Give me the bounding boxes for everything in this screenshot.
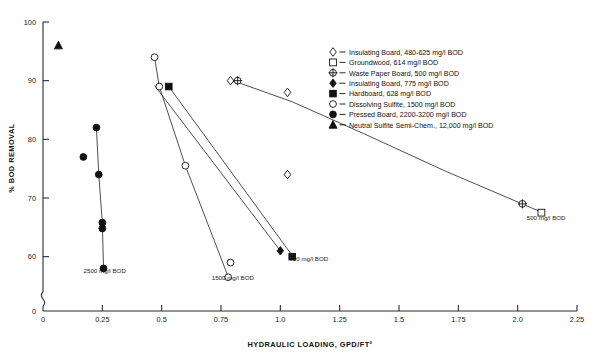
- legend-label: Groundwood, 614 mg/l BOD: [349, 59, 438, 67]
- data-point-open-circle-5-2: [182, 162, 189, 169]
- y-tick-label: 80: [28, 135, 36, 144]
- y-tick-label: 100: [24, 18, 36, 27]
- legend-label: Neutral Sulfite Semi-Chem., 12,000 mg/l …: [349, 122, 493, 130]
- data-point-open-circle-5-3: [227, 259, 234, 266]
- x-tick-label: 0.75: [214, 315, 228, 324]
- legend-marker-filled-square: [330, 90, 337, 97]
- legend-marker-filled-circle: [330, 111, 337, 118]
- bod-removal-scatter-plot: 060708090100% BOD REMOVAL00.250.50.751.0…: [0, 0, 596, 363]
- legend-label: Insulating Board, 775 mg/l BOD: [349, 80, 449, 88]
- data-point-filled-circle-6-2: [95, 171, 102, 178]
- legend-label: Insulating Board, 480-625 mg/l BOD: [349, 49, 463, 57]
- chart-figure: 060708090100% BOD REMOVAL00.250.50.751.0…: [0, 0, 596, 363]
- annotation-label: 700 mg/l BOD: [289, 255, 328, 262]
- y-tick-label: 90: [28, 76, 36, 85]
- legend-label: Hardboard, 628 mg/l BOD: [349, 90, 431, 98]
- annotation-label: 500 mg/l BOD: [527, 214, 566, 221]
- x-tick-label: 0.25: [95, 315, 109, 324]
- annotation-label: 2500 mg/l BOD: [84, 267, 127, 274]
- data-point-filled-circle-6-0: [93, 124, 100, 131]
- data-point-open-circle-5-0: [151, 54, 158, 61]
- y-tick-label: 0: [32, 307, 36, 316]
- legend-marker-open-square: [330, 59, 337, 66]
- x-tick-label: 2.0: [513, 315, 523, 324]
- x-tick-label: 1.25: [332, 315, 346, 324]
- legend-label: Pressed Board, 2200-3200 mg/l BOD: [349, 111, 467, 119]
- x-tick-label: 1.75: [451, 315, 465, 324]
- x-tick-label: 1.5: [394, 315, 404, 324]
- x-tick-label: 1.0: [275, 315, 285, 324]
- x-tick-label: 2.25: [570, 315, 584, 324]
- annotation-label: 1500 mg/l BOD: [212, 274, 255, 281]
- y-axis-title: % BOD REMOVAL: [7, 123, 16, 192]
- x-axis-title: HYDRAULIC LOADING, GPD/FT²: [247, 340, 372, 349]
- plot-background: [0, 0, 596, 363]
- data-point-filled-circle-6-1: [80, 154, 87, 161]
- legend-label: Dissolving Sulfite, 1500 mg/l BOD: [349, 101, 455, 109]
- data-point-filled-square-4-0: [165, 83, 172, 90]
- y-tick-label: 70: [28, 194, 36, 203]
- legend-marker-open-circle: [330, 101, 337, 108]
- x-tick-label: 0: [41, 315, 45, 324]
- x-tick-label: 0.5: [157, 315, 167, 324]
- y-tick-label: 60: [28, 252, 36, 261]
- data-point-filled-circle-6-4: [99, 225, 106, 232]
- data-point-open-circle-5-1: [156, 83, 163, 90]
- legend-label: Waste Paper Board, 500 mg/l BOD: [349, 70, 459, 78]
